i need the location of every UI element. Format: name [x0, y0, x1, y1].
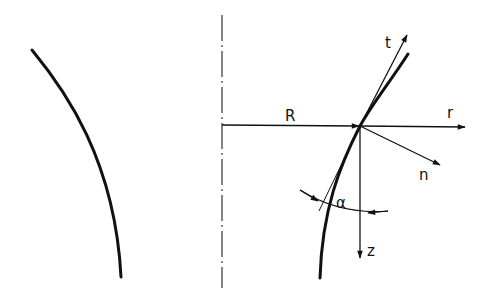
radius-label: R: [285, 107, 295, 125]
t-label: t: [385, 34, 391, 52]
r-axis-arrow: [360, 126, 465, 127]
angle-arc-arrow-left: [300, 190, 318, 201]
left-meridian-curve: [32, 50, 121, 277]
shell-meridian-diagram: R r t n z α: [0, 0, 487, 294]
radius-arrow: [222, 125, 359, 126]
right-meridian-curve: [320, 54, 408, 278]
n-label: n: [419, 166, 429, 184]
n-arrow: [360, 126, 440, 165]
alpha-label: α: [336, 194, 346, 212]
t-arrow: [360, 35, 407, 126]
z-label: z: [367, 242, 375, 260]
r-axis-label: r: [447, 104, 454, 122]
